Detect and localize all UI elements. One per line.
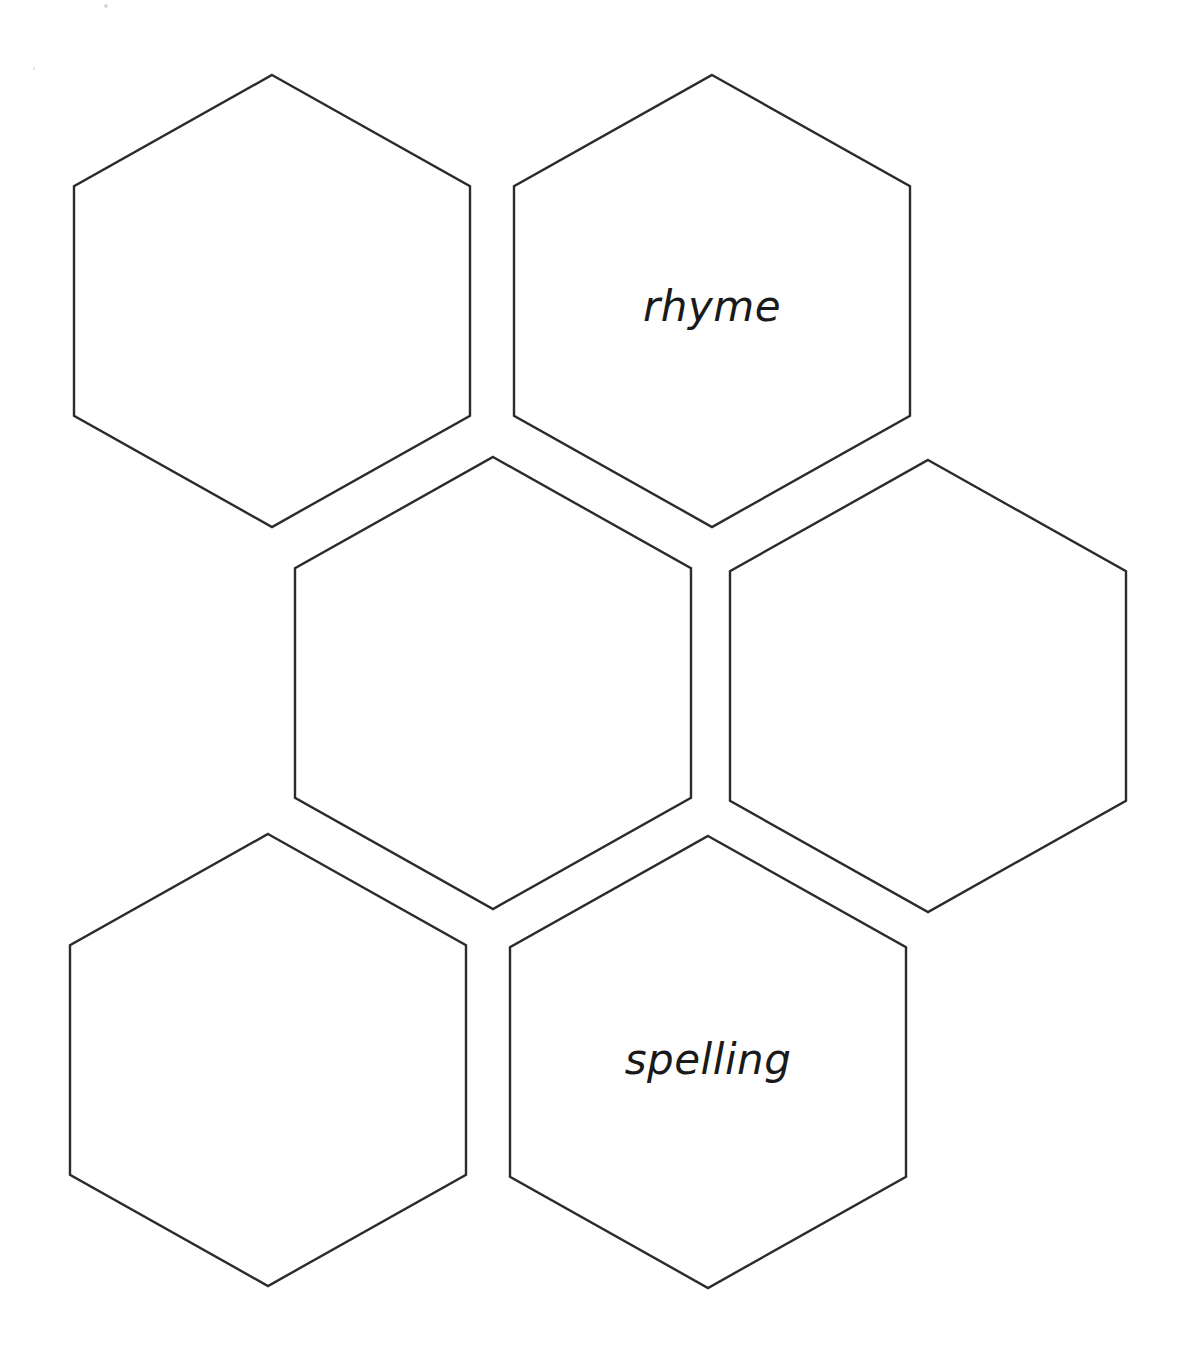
hex-middle[interactable] xyxy=(295,457,691,909)
paper-speck-left xyxy=(33,67,35,70)
hex-top-right-label: rhyme xyxy=(643,282,781,331)
hex-top-left[interactable] xyxy=(74,75,470,527)
hex-bottom-left[interactable] xyxy=(70,834,466,1286)
worksheet-page: rhymespelling xyxy=(0,0,1184,1355)
hex-bottom-right-label: spelling xyxy=(625,1035,792,1084)
hexagon-grid: rhymespelling xyxy=(0,0,1184,1355)
paper-speck-top xyxy=(104,4,108,8)
hex-right[interactable] xyxy=(730,460,1126,912)
